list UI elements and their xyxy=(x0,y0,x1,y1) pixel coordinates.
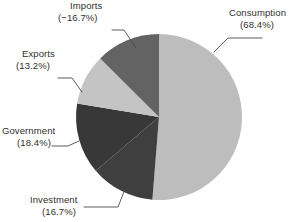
leader-line-consumption xyxy=(214,38,262,52)
callout-exports: Exports (13.2%) xyxy=(16,48,55,71)
callout-imports: Imports (−16.7%) xyxy=(58,0,102,23)
pie-chart-canvas xyxy=(0,0,298,222)
leader-line-government xyxy=(52,141,79,146)
callout-consumption: Consumption (68.4%) xyxy=(229,7,286,30)
callout-government-name: Government xyxy=(2,125,55,137)
callout-consumption-value: (68.4%) xyxy=(229,19,286,31)
callout-government-value: (18.4%) xyxy=(2,137,55,149)
callout-imports-name: Imports xyxy=(58,0,102,12)
callout-exports-value: (13.2%) xyxy=(16,60,55,72)
callout-exports-name: Exports xyxy=(16,48,55,60)
callout-government: Government (18.4%) xyxy=(2,125,55,148)
callout-investment-value: (16.7%) xyxy=(30,206,77,218)
leader-line-investment xyxy=(84,189,125,207)
leader-line-exports xyxy=(58,78,82,92)
callout-investment-name: Investment xyxy=(30,194,77,206)
pie-slice-consumption[interactable] xyxy=(152,34,242,200)
callout-imports-value: (−16.7%) xyxy=(58,12,102,24)
callout-investment: Investment (16.7%) xyxy=(30,194,77,217)
pie-chart: Consumption (68.4%) Imports (−16.7%) Exp… xyxy=(0,0,298,222)
callout-consumption-name: Consumption xyxy=(229,7,286,19)
pie-slices xyxy=(76,34,242,200)
